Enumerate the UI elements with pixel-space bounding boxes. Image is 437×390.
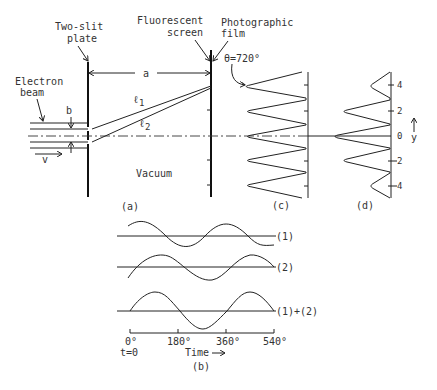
slit-separation-label: b	[66, 105, 72, 116]
time-tick-540: 540°	[263, 336, 287, 347]
two-slit-diagram: Two-slit plate Fluorescent screen Photog…	[0, 0, 437, 390]
electron-beam-label-2: beam	[20, 87, 44, 98]
tick-label-neg4: 4	[397, 181, 402, 191]
wave-1	[128, 221, 274, 246]
screen-label: Fluorescent	[137, 15, 203, 26]
beam-pointer-arrow	[37, 99, 43, 121]
caption-c: (c)	[272, 200, 290, 211]
theta-pointer-arrow	[232, 64, 245, 85]
caption-d: (d)	[356, 200, 374, 211]
tick-label-0: 0	[397, 131, 402, 141]
screen-pointer-arrow	[195, 40, 210, 61]
time-label: Time	[185, 347, 209, 358]
tick-label-2: 2	[397, 106, 402, 116]
two-slit-label-2: plate	[67, 33, 97, 44]
caption-b: (b)	[192, 361, 210, 372]
panel-b: (1) (2) (1)+(2) 0° 180° 360° 540° t=0 Ti…	[117, 221, 318, 372]
theta-label: θ=720°	[224, 53, 260, 64]
intensity-curve-d	[335, 72, 390, 198]
t0-label: t=0	[120, 347, 138, 358]
intensity-curve-c	[246, 72, 306, 198]
electron-beam-label: Electron	[15, 76, 63, 87]
time-tick-360: 360°	[216, 336, 240, 347]
plate-pointer-arrow	[78, 46, 88, 61]
path2-label: ℓ2	[139, 118, 150, 132]
wave-2	[128, 255, 274, 280]
wave1-label: (1)	[276, 231, 294, 242]
time-tick-0: 0°	[125, 336, 137, 347]
distance-label: a	[143, 68, 149, 79]
path-1	[92, 86, 211, 129]
film-label: Photographic	[221, 17, 293, 28]
film-label-2: film	[221, 28, 245, 39]
screen-label-2: screen	[167, 27, 203, 38]
time-tick-180: 180°	[167, 336, 191, 347]
panel-c: θ=720° (c)	[224, 53, 308, 211]
tick-label-neg2: 2	[397, 156, 402, 166]
path-2	[92, 88, 211, 142]
panel-d: 4 2 0 2 4 y (d)	[308, 72, 417, 211]
tick-label-4: 4	[397, 80, 402, 90]
sum-label: (1)+(2)	[276, 306, 318, 317]
y-axis-label: y	[411, 132, 417, 143]
panel-a: Two-slit plate Fluorescent screen Photog…	[15, 15, 308, 212]
caption-a: (a)	[121, 201, 139, 212]
wave2-label: (2)	[276, 262, 294, 273]
vacuum-label: Vacuum	[136, 168, 172, 179]
path1-label: ℓ1	[133, 94, 144, 108]
two-slit-label: Two-slit	[55, 21, 103, 32]
velocity-label: v	[42, 154, 48, 165]
